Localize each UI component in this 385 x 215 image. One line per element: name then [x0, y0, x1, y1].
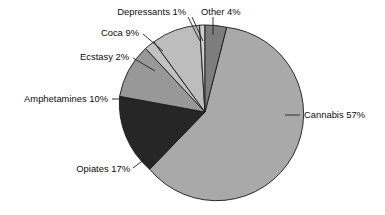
pie-label-coca: Coca 9% — [101, 27, 139, 38]
pie-label-depressants: Depressants 1% — [117, 6, 186, 17]
pie-label-amphetamines: Amphetamines 10% — [24, 93, 108, 104]
pie-label-opiates: Opiates 17% — [76, 163, 130, 174]
pie-label-cannabis: Cannabis 57% — [304, 109, 365, 120]
pie-chart-figure: Depressants 1% Other 4% Coca 9% Ecstasy … — [0, 0, 385, 215]
pie-label-other: Other 4% — [201, 6, 241, 17]
pie-chart-canvas: Depressants 1% Other 4% Coca 9% Ecstasy … — [0, 0, 385, 215]
pie-slices — [119, 25, 303, 201]
pie-label-ecstasy: Ecstasy 2% — [80, 51, 129, 62]
